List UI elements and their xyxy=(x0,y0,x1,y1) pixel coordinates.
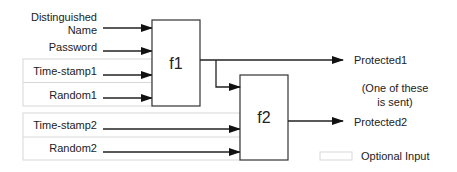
input-label-random2: Random2 xyxy=(49,142,97,154)
note-line-1: (One of these xyxy=(362,82,429,94)
input-label-distinguished-name-2: Name xyxy=(68,24,97,36)
arrow-f1-to-f2 xyxy=(216,60,240,87)
legend-swatch-optional-input xyxy=(320,152,352,160)
input-label-random1: Random1 xyxy=(49,89,97,101)
input-label-time-stamp2: Time-stamp2 xyxy=(33,119,97,131)
output-label-protected1: Protected1 xyxy=(354,54,407,66)
note-line-2: is sent) xyxy=(377,96,412,108)
input-label-distinguished-name-1: Distinguished xyxy=(31,11,97,23)
input-label-time-stamp1: Time-stamp1 xyxy=(33,65,97,77)
function-label-f1: f1 xyxy=(169,55,182,72)
diagram-canvas: Distinguished Name Password Time-stamp1 … xyxy=(0,0,457,172)
function-label-f2: f2 xyxy=(257,109,270,126)
output-label-protected2: Protected2 xyxy=(354,116,407,128)
legend-label-optional-input: Optional Input xyxy=(361,150,430,162)
input-label-password: Password xyxy=(49,41,97,53)
